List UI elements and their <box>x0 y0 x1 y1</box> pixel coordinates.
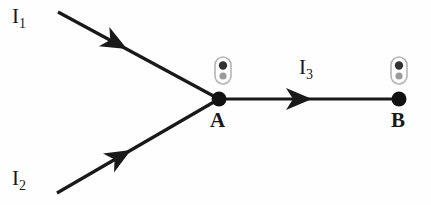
arrowhead-i2 <box>103 140 137 172</box>
marker-dot-top-left <box>219 61 227 69</box>
current-subscript-i2: 2 <box>19 178 26 193</box>
wire-i1 <box>58 12 219 99</box>
marker-dot-bottom-right <box>395 72 402 79</box>
current-subscript-i1: 1 <box>19 16 26 31</box>
arrowhead-i1 <box>99 27 132 59</box>
current-subscript-i3: 3 <box>306 67 313 82</box>
current-symbol-i3: I <box>299 55 306 79</box>
two-dot-marker-left <box>215 57 231 84</box>
node-b-dot <box>392 92 407 107</box>
two-dot-marker-right <box>391 57 407 84</box>
current-symbol-i1: I <box>12 4 19 28</box>
marker-dot-bottom-left <box>219 72 226 79</box>
marker-outline-left <box>215 57 231 84</box>
circuit-diagram: I1 I2 I3 A B <box>0 0 431 205</box>
current-label-i2: I2 <box>12 168 26 189</box>
node-label-b: B <box>391 110 405 131</box>
node-label-a: A <box>210 110 225 131</box>
current-label-i3: I3 <box>299 57 313 78</box>
circuit-svg <box>0 0 431 205</box>
marker-outline-right <box>391 57 407 84</box>
marker-dot-top-right <box>395 61 403 69</box>
current-symbol-i2: I <box>12 166 19 190</box>
wire-i2 <box>57 99 219 193</box>
node-a-dot <box>212 92 227 107</box>
current-label-i1: I1 <box>12 6 26 27</box>
